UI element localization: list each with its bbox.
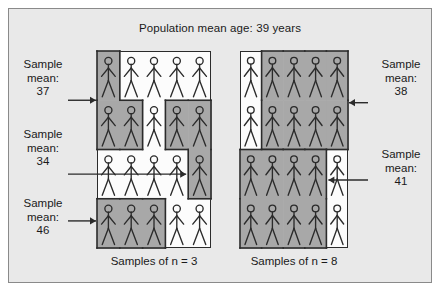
sample-word: Sample <box>12 197 74 211</box>
sample-word: Sample <box>12 58 74 72</box>
sample-mean-label-37: Sample mean: 37 <box>12 58 74 99</box>
sample-mean-value: 37 <box>12 85 74 99</box>
sample-mean-label-46: Sample mean: 46 <box>12 197 74 238</box>
caption-samples-n8: Samples of n = 8 <box>226 255 362 267</box>
sample-mean-label-41: Sample mean: 41 <box>370 148 432 189</box>
panel-samples-n3 <box>97 51 211 248</box>
mean-word: mean: <box>12 211 74 225</box>
sample-mean-label-38: Sample mean: 38 <box>370 58 432 99</box>
sample-word: Sample <box>370 58 432 72</box>
sample-word: Sample <box>370 148 432 162</box>
sample-mean-value: 41 <box>370 175 432 189</box>
mean-word: mean: <box>370 162 432 176</box>
sample-mean-value: 34 <box>12 155 74 169</box>
caption-samples-n3: Samples of n = 3 <box>80 255 228 267</box>
mean-word: mean: <box>12 142 74 156</box>
sample-mean-value: 38 <box>370 85 432 99</box>
mean-word: mean: <box>370 72 432 86</box>
sample-mean-value: 46 <box>12 224 74 238</box>
panel-samples-n8 <box>240 51 348 248</box>
sample-mean-label-34: Sample mean: 34 <box>12 128 74 169</box>
sample-word: Sample <box>12 128 74 142</box>
figure-title: Population mean age: 39 years <box>8 22 432 34</box>
sampling-distribution-figure: Population mean age: 39 years Sample mea… <box>0 0 441 293</box>
mean-word: mean: <box>12 72 74 86</box>
